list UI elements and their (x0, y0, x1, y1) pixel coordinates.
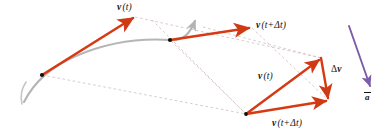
velocity-symbol: v (337, 64, 341, 74)
physics-vector-diagram: v(t) v(t+Δt) v(t) v(t+Δt) Δv a (0, 0, 388, 135)
velocity-vector-at-t-plus-dt (170, 28, 249, 40)
acceleration-symbol: a (364, 92, 371, 102)
construction-line (42, 75, 246, 114)
construction-lines (42, 17, 328, 114)
velocity-argument: (t) (122, 2, 132, 12)
velocity-argument: (t) (263, 71, 273, 81)
average-acceleration-vector (349, 26, 370, 86)
velocity-argument: (t+Δt) (261, 20, 286, 30)
velocity-argument: (t+Δt) (277, 118, 302, 128)
label-average-acceleration: a (364, 92, 371, 102)
label-triangle-velocity-at-t-plus-dt: v(t+Δt) (272, 119, 302, 129)
triangle-vector-v-t-plus-dt (246, 101, 326, 114)
construction-line (252, 28, 328, 100)
diagram-canvas (0, 0, 388, 135)
construction-line (135, 17, 322, 58)
label-velocity-at-t: v(t) (117, 3, 132, 13)
triangle-vector-delta-v (321, 58, 328, 98)
label-triangle-velocity-at-t: v(t) (258, 72, 273, 82)
label-delta-v: Δv (331, 65, 342, 75)
label-velocity-at-t-plus-dt: v(t+Δt) (256, 21, 286, 31)
triangle-vector-v-t (246, 60, 319, 114)
velocity-vector-at-t (42, 18, 133, 75)
triangle-apex-point (244, 112, 248, 116)
construction-line (171, 41, 246, 114)
trajectory-point-t-plus-dt (168, 38, 172, 42)
trajectory-point-t (40, 73, 44, 77)
